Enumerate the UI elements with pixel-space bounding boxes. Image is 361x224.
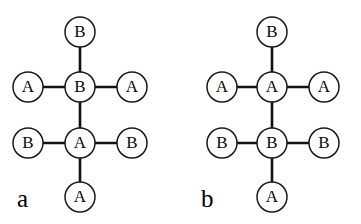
- node-label: A: [318, 77, 331, 96]
- node-label: A: [74, 187, 87, 206]
- node-b-top[interactable]: B: [257, 17, 287, 47]
- node-a-top[interactable]: B: [65, 17, 95, 47]
- node-b-bottom[interactable]: A: [257, 182, 287, 212]
- node-label: B: [22, 133, 33, 152]
- node-label: B: [318, 133, 329, 152]
- node-label: B: [266, 22, 277, 41]
- node-label: B: [216, 133, 227, 152]
- node-a-lower-center[interactable]: A: [65, 128, 95, 158]
- node-a-lower-left[interactable]: B: [13, 128, 43, 158]
- panel-caption-b: b: [201, 186, 214, 211]
- node-label: A: [266, 187, 279, 206]
- node-label: A: [216, 77, 229, 96]
- node-label: A: [22, 77, 35, 96]
- diagram-panel-b: B A A A B B: [181, 0, 361, 224]
- node-a-upper-right[interactable]: A: [117, 72, 147, 102]
- node-label: A: [266, 77, 279, 96]
- node-label: B: [74, 77, 85, 96]
- node-b-upper-center[interactable]: A: [257, 72, 287, 102]
- node-b-lower-right[interactable]: B: [309, 128, 339, 158]
- node-a-upper-left[interactable]: A: [13, 72, 43, 102]
- node-b-lower-left[interactable]: B: [207, 128, 237, 158]
- node-label: B: [126, 133, 137, 152]
- node-label: A: [74, 133, 87, 152]
- node-label: B: [74, 22, 85, 41]
- edge-group-b: [222, 32, 324, 197]
- node-label: B: [266, 133, 277, 152]
- panel-caption-a: a: [17, 186, 28, 211]
- node-a-lower-right[interactable]: B: [117, 128, 147, 158]
- node-b-upper-right[interactable]: A: [309, 72, 339, 102]
- node-label: A: [126, 77, 139, 96]
- figure-root: B A B A B A: [0, 0, 361, 224]
- node-a-upper-center[interactable]: B: [65, 72, 95, 102]
- node-a-bottom[interactable]: A: [65, 182, 95, 212]
- edge-group-a: [28, 32, 132, 197]
- node-b-upper-left[interactable]: A: [207, 72, 237, 102]
- diagram-panel-a: B A B A B A: [0, 0, 180, 224]
- node-b-lower-center[interactable]: B: [257, 128, 287, 158]
